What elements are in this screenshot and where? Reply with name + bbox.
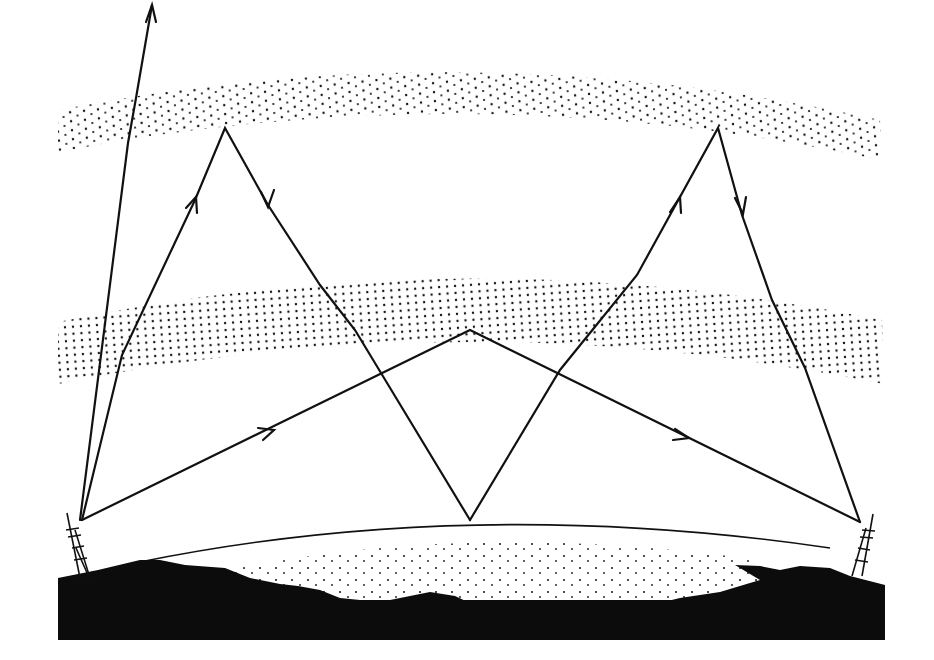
ionosphere-propagation-diagram [0,0,934,660]
right-receiver-tower [852,514,875,576]
arrowhead-down-icon [261,190,274,207]
land-base [58,600,885,640]
arrowhead-up-icon [670,197,681,213]
escaping-ray [80,5,152,520]
arrowhead-right-icon [258,428,274,440]
left-transmitter-tower [66,513,90,578]
upper-ionosphere-layer [58,72,882,160]
